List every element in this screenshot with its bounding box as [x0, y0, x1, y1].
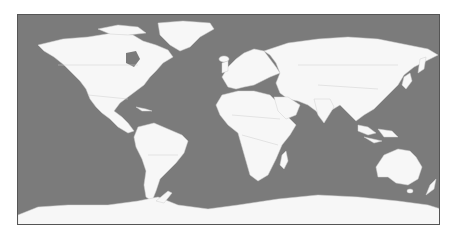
world-map	[17, 14, 440, 225]
uk	[222, 61, 228, 73]
world-map-svg	[18, 15, 440, 225]
